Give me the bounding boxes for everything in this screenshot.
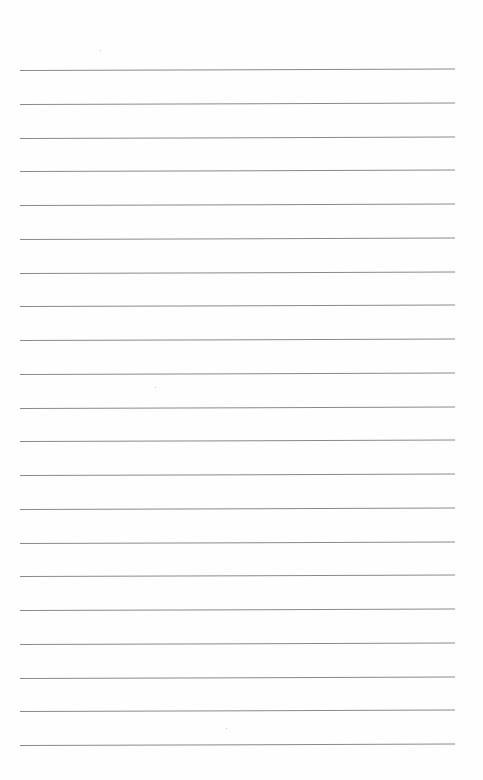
ruled-line xyxy=(20,710,455,713)
paper-speck xyxy=(155,387,156,388)
ruled-line xyxy=(20,608,455,611)
ruled-line xyxy=(20,575,455,578)
ruled-line xyxy=(20,473,455,476)
ruled-line xyxy=(20,271,455,274)
ruled-line xyxy=(20,507,455,510)
ruled-line xyxy=(20,338,455,341)
ruled-line xyxy=(20,237,455,240)
ruled-line xyxy=(20,305,455,308)
ruled-line xyxy=(20,440,455,443)
ruled-line xyxy=(20,203,455,206)
ruled-line xyxy=(20,170,455,173)
ruled-line xyxy=(20,102,455,105)
ruled-line xyxy=(20,676,455,679)
ruled-line xyxy=(20,541,455,544)
ruled-line xyxy=(20,372,455,375)
ruled-line xyxy=(20,743,455,746)
paper-speck xyxy=(100,50,101,51)
paper-speck xyxy=(226,728,227,729)
ruled-line xyxy=(20,406,455,409)
ruled-line xyxy=(20,68,455,71)
ruled-line xyxy=(20,136,455,139)
ruled-line xyxy=(20,642,455,645)
lined-paper-page xyxy=(0,0,483,780)
